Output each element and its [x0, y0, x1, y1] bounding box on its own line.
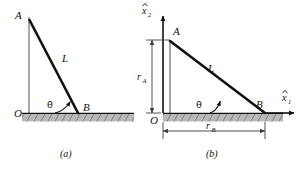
- caption-panel-a: (a): [60, 148, 72, 160]
- label-rod-length-a: L: [61, 52, 68, 64]
- ground-a: [22, 113, 134, 121]
- label-point-a-top: A: [14, 9, 22, 21]
- rod-ab-a: [30, 20, 79, 113]
- dimension-ra: [146, 40, 170, 113]
- rod-ab-b: [170, 41, 265, 113]
- label-ra: r A: [137, 71, 147, 84]
- label-angle-a: θ: [47, 99, 53, 110]
- label-axis-x2-base: x: [141, 5, 147, 16]
- label-point-b-contact: B: [256, 98, 263, 110]
- label-axis-x1-sub: 1: [288, 98, 291, 105]
- label-axis-x2: x 2: [141, 3, 152, 18]
- angle-arc-b: [210, 101, 221, 113]
- label-point-b-top: A: [172, 25, 180, 37]
- physics-figure-svg: A O B L θ (a): [0, 0, 305, 170]
- caption-panel-b: (b): [206, 148, 218, 160]
- label-axis-x1: x 1: [281, 90, 291, 105]
- label-ra-sub: A: [142, 77, 147, 84]
- label-axis-x2-sub: 2: [148, 11, 152, 18]
- angle-arc-a: [55, 102, 71, 114]
- label-axis-x1-base: x: [281, 92, 287, 103]
- label-rod-length-b: L: [207, 62, 214, 74]
- label-rb-base: r: [206, 120, 210, 131]
- panel-b: x 2 x 1 A O B L θ r A r B: [137, 3, 294, 160]
- ground-b: [163, 113, 283, 121]
- label-point-a-contact: B: [83, 101, 90, 113]
- label-point-a-origin: O: [14, 107, 22, 119]
- label-ra-base: r: [137, 71, 141, 82]
- panel-a: A O B L θ (a): [14, 9, 134, 160]
- label-rb-sub: B: [212, 126, 216, 133]
- ground-hatch-fill-b: [163, 114, 283, 122]
- ground-hatch-fill-a: [22, 114, 134, 122]
- label-angle-b: θ: [196, 99, 202, 110]
- label-point-b-origin: O: [150, 114, 158, 126]
- figure-root: A O B L θ (a): [0, 0, 305, 170]
